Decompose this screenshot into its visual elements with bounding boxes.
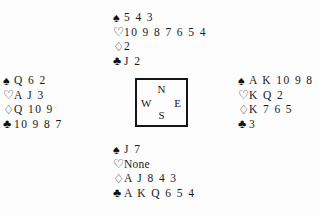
heart-icon: ♡ <box>113 25 124 40</box>
compass-box: N W E S <box>135 78 188 127</box>
hand-north: ♠ 5 4 3 ♡ 10 9 8 7 6 5 4 ♢ 2 ♣ J 2 <box>113 10 207 68</box>
hand-west: ♠ Q 6 2 ♡ A J 3 ♢ Q 10 9 ♣ 10 9 8 7 <box>3 73 63 131</box>
north-heart-line: ♡ 10 9 8 7 6 5 4 <box>113 25 207 40</box>
west-diamonds: Q 10 9 <box>14 102 54 117</box>
south-spade-line: ♠ J 7 <box>113 142 195 157</box>
compass-label-south: S <box>158 110 164 121</box>
east-diamonds: K 7 6 5 <box>249 102 293 117</box>
north-spade-line: ♠ 5 4 3 <box>113 10 207 25</box>
spade-icon: ♠ <box>3 74 14 89</box>
west-hearts: A J 3 <box>14 88 45 103</box>
south-club-line: ♣ A K Q 6 5 4 <box>113 186 195 201</box>
south-hearts: None <box>124 157 150 172</box>
heart-icon: ♡ <box>238 88 249 103</box>
heart-icon: ♡ <box>113 157 124 172</box>
south-heart-line: ♡ None <box>113 157 195 172</box>
compass-label-north: N <box>158 84 166 95</box>
west-spade-line: ♠ Q 6 2 <box>3 73 63 88</box>
north-spades: 5 4 3 <box>124 10 154 25</box>
club-icon: ♣ <box>3 117 14 132</box>
spade-icon: ♠ <box>113 11 124 26</box>
spade-icon: ♠ <box>238 74 249 89</box>
west-diamond-line: ♢ Q 10 9 <box>3 102 63 117</box>
compass-label-east: E <box>174 97 181 108</box>
west-spades: Q 6 2 <box>14 73 47 88</box>
diamond-icon: ♢ <box>3 103 14 118</box>
compass-label-west: W <box>141 97 151 108</box>
east-spade-line: ♠ A K 10 9 8 <box>238 73 313 88</box>
north-diamonds: 2 <box>124 39 131 54</box>
hand-south: ♠ J 7 ♡ None ♢ A J 8 4 3 ♣ A K Q 6 5 4 <box>113 142 195 200</box>
north-club-line: ♣ J 2 <box>113 54 207 69</box>
spade-icon: ♠ <box>113 143 124 158</box>
east-spades: A K 10 9 8 <box>249 73 313 88</box>
west-clubs: 10 9 8 7 <box>14 117 63 132</box>
south-clubs: A K Q 6 5 4 <box>124 186 195 201</box>
south-spades: J 7 <box>124 142 141 157</box>
bridge-deal-diagram: ♠ 5 4 3 ♡ 10 9 8 7 6 5 4 ♢ 2 ♣ J 2 ♠ Q 6… <box>0 0 320 216</box>
east-diamond-line: ♢ K 7 6 5 <box>238 102 313 117</box>
club-icon: ♣ <box>113 186 124 201</box>
south-diamonds: A J 8 4 3 <box>124 171 178 186</box>
north-clubs: J 2 <box>124 54 141 69</box>
club-icon: ♣ <box>238 117 249 132</box>
club-icon: ♣ <box>113 54 124 69</box>
east-club-line: ♣ 3 <box>238 117 313 132</box>
north-hearts: 10 9 8 7 6 5 4 <box>124 25 207 40</box>
east-clubs: 3 <box>249 117 256 132</box>
heart-icon: ♡ <box>3 88 14 103</box>
west-club-line: ♣ 10 9 8 7 <box>3 117 63 132</box>
south-diamond-line: ♢ A J 8 4 3 <box>113 171 195 186</box>
east-heart-line: ♡ K Q 2 <box>238 88 313 103</box>
hand-east: ♠ A K 10 9 8 ♡ K Q 2 ♢ K 7 6 5 ♣ 3 <box>238 73 313 131</box>
east-hearts: K Q 2 <box>249 88 284 103</box>
diamond-icon: ♢ <box>113 40 124 55</box>
north-diamond-line: ♢ 2 <box>113 39 207 54</box>
diamond-icon: ♢ <box>113 172 124 187</box>
west-heart-line: ♡ A J 3 <box>3 88 63 103</box>
diamond-icon: ♢ <box>238 103 249 118</box>
